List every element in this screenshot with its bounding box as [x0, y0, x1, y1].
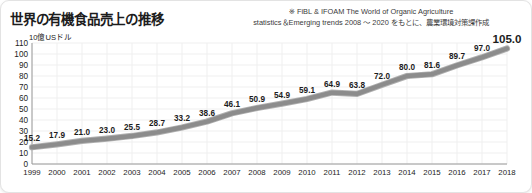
data-point-label: 28.7	[149, 119, 165, 128]
y-axis-tick: 40	[6, 116, 28, 125]
data-point-label: 38.6	[199, 109, 215, 118]
x-axis-tick: 1999	[23, 168, 40, 177]
data-point-label: 64.9	[324, 80, 340, 89]
x-axis-tick: 2009	[273, 168, 290, 177]
chart-svg	[1, 1, 532, 193]
y-axis-tick: 110	[6, 39, 28, 48]
x-axis-tick: 2001	[73, 168, 90, 177]
x-axis-tick: 2013	[373, 168, 390, 177]
x-axis-tick: 2000	[48, 168, 65, 177]
data-point-label: 46.1	[224, 100, 240, 109]
x-axis-tick: 2005	[173, 168, 190, 177]
x-axis-tick: 2002	[98, 168, 115, 177]
x-axis-tick: 2012	[348, 168, 365, 177]
data-point-label: 59.1	[299, 86, 315, 95]
data-point-label: 105.0	[492, 32, 521, 45]
data-point-label: 17.9	[49, 131, 65, 140]
x-axis-tick: 2017	[473, 168, 490, 177]
data-point-label: 33.2	[174, 114, 190, 123]
x-axis-tick: 2014	[398, 168, 415, 177]
data-point-label: 63.8	[349, 81, 365, 90]
x-axis-tick: 2003	[123, 168, 140, 177]
y-axis-tick: 70	[6, 83, 28, 92]
data-point-label: 54.9	[274, 91, 290, 100]
x-axis-tick: 2010	[298, 168, 315, 177]
data-point-label: 25.5	[124, 123, 140, 132]
y-axis-tick: 50	[6, 105, 28, 114]
y-axis-tick: 90	[6, 61, 28, 70]
x-axis-tick: 2004	[148, 168, 165, 177]
data-point-label: 50.9	[249, 95, 265, 104]
data-point-label: 80.0	[399, 63, 415, 72]
chart-plot-area: 0102030405060708090100110 19992000200120…	[1, 1, 532, 193]
data-point-label: 81.6	[424, 61, 440, 70]
data-point-label: 23.0	[99, 126, 115, 135]
y-axis-tick: 80	[6, 72, 28, 81]
x-axis-tick: 2007	[223, 168, 240, 177]
y-axis-tick: 60	[6, 94, 28, 103]
x-axis-tick: 2011	[324, 168, 341, 177]
y-axis-tick: 100	[6, 50, 28, 59]
data-point-label: 89.7	[449, 52, 465, 61]
data-point-label: 97.0	[474, 44, 490, 53]
data-point-label: 21.0	[74, 128, 90, 137]
x-axis-tick: 2016	[448, 168, 465, 177]
x-axis-tick: 2015	[423, 168, 440, 177]
chart-card: 世界の有機食品売上の推移 ※ FiBL & IFOAM The World of…	[0, 0, 532, 193]
x-axis-tick: 2008	[248, 168, 265, 177]
data-point-label: 72.0	[374, 72, 390, 81]
data-point-label: 15.2	[24, 134, 40, 143]
x-axis-tick: 2006	[198, 168, 215, 177]
y-axis-tick: 10	[6, 149, 28, 158]
x-axis-tick: 2018	[498, 168, 515, 177]
